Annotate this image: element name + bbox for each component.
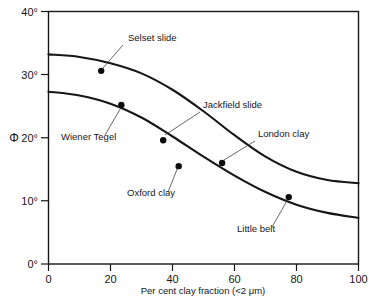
annotation-selset-slide: Selset slide xyxy=(128,32,177,43)
annotation-wiener-tegel: Wiener Tegel xyxy=(61,131,116,142)
annotation-jackfield-slide: Jackfield slide xyxy=(203,99,262,110)
data-point-jackfield-slide xyxy=(160,137,166,143)
data-point-little-belt xyxy=(286,194,292,200)
figure-container: 0° 10° 20° 30° 40° 0 20 40 60 80 100 Φ P… xyxy=(0,0,369,299)
x-tick-label-60: 60 xyxy=(228,273,240,285)
x-axis-ticks xyxy=(49,264,359,271)
curve-upper xyxy=(49,54,359,183)
y-axis-ticks xyxy=(41,12,49,265)
x-tick-label-0: 0 xyxy=(45,273,51,285)
y-tick-label-10: 10° xyxy=(21,195,38,207)
x-tick-label-20: 20 xyxy=(104,273,116,285)
leader-line-london-clay xyxy=(224,141,255,160)
x-tick-label-80: 80 xyxy=(290,273,302,285)
data-point-oxford-clay xyxy=(176,163,182,169)
data-point-wiener-tegel xyxy=(118,102,124,108)
y-tick-label-0: 0° xyxy=(27,258,38,270)
annotation-oxford-clay: Oxford clay xyxy=(127,187,175,198)
x-axis-title: Per cent clay fraction (<2 μm) xyxy=(141,285,266,296)
y-tick-label-40: 40° xyxy=(21,6,38,18)
data-point-london-clay xyxy=(219,160,225,166)
y-tick-label-30: 30° xyxy=(21,69,38,81)
y-axis-title: Φ xyxy=(9,131,19,145)
y-tick-labels: 0° 10° 20° 30° 40° xyxy=(21,6,38,270)
x-tick-labels: 0 20 40 60 80 100 xyxy=(45,273,367,285)
x-tick-label-40: 40 xyxy=(166,273,178,285)
x-tick-label-100: 100 xyxy=(349,273,367,285)
annotation-london-clay: London clay xyxy=(258,128,309,139)
y-tick-label-20: 20° xyxy=(21,132,38,144)
phi-vs-clay-fraction-chart: 0° 10° 20° 30° 40° 0 20 40 60 80 100 Φ P… xyxy=(0,0,369,299)
annotation-labels: Selset slideWiener TegelJackfield slideL… xyxy=(61,32,309,234)
annotation-little-belt: Little belt xyxy=(237,223,275,234)
data-point-selset-slide xyxy=(98,68,104,74)
leader-line-jackfield-slide xyxy=(165,112,200,135)
